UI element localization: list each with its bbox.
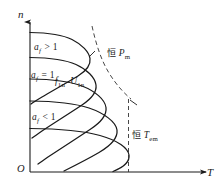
- torque-axis-label: T: [207, 166, 213, 178]
- tangency-mark-upper: [90, 51, 95, 56]
- tangency-mark-lower: [130, 100, 137, 105]
- origin-label: O: [17, 163, 25, 174]
- rated-values-label: f1n U1n: [55, 76, 84, 88]
- region-label-af-less-than-one: af < 1: [32, 112, 56, 124]
- constant-power-envelope: [92, 26, 131, 99]
- constant-power-label: 恒 Pm: [107, 46, 130, 60]
- plot-canvas: [0, 0, 224, 185]
- region-label-af-greater-than-one: af > 1: [34, 42, 58, 54]
- characteristic-curve-5: [30, 129, 129, 172]
- speed-torque-figure: n T O af > 1 af = 1 f1n U1n af < 1 恒 Pm …: [0, 0, 224, 185]
- constant-torque-label: 恒 Tem: [132, 128, 158, 142]
- speed-axis-label: n: [18, 8, 24, 20]
- region-label-af-equals-one: af = 1: [31, 70, 55, 82]
